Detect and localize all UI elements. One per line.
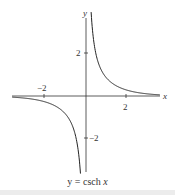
y-axis-label: y — [82, 8, 87, 18]
chart-caption: y = csch x — [0, 176, 175, 187]
csch-curve-negative-branch — [12, 97, 80, 173]
x-axis-label: x — [162, 91, 167, 101]
caption-variable: x — [103, 176, 107, 187]
csch-curve-positive-branch — [91, 12, 160, 95]
x-tick-label-neg2: −2 — [37, 83, 47, 93]
caption-prefix: y = csch — [67, 176, 103, 187]
y-tick-label-2: 2 — [76, 48, 81, 58]
x-tick-label-2: 2 — [123, 102, 128, 112]
bottom-band — [0, 190, 175, 195]
csch-plot: x y −2 2 2 −2 — [0, 0, 175, 195]
y-tick-label-neg2: −2 — [89, 133, 99, 143]
